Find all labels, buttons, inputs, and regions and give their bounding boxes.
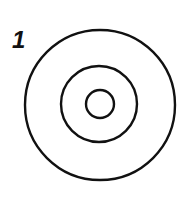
outer-circle [25, 30, 175, 180]
inner-circle [86, 90, 114, 118]
concentric-circles-diagram [0, 0, 184, 203]
middle-circle [61, 66, 137, 142]
